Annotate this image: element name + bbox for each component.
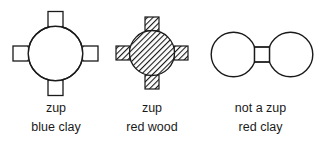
shape-not-a-zup-red-clay — [211, 32, 313, 77]
caption-verdict: zup — [11, 99, 101, 118]
square-north-hatched — [145, 17, 159, 31]
caption-verdict: not a zup — [208, 99, 313, 118]
caption-material: red clay — [208, 118, 313, 137]
caption-verdict: zup — [107, 99, 197, 118]
circle-left-outline — [211, 32, 256, 77]
shape-zup-red-wood — [116, 17, 188, 89]
caption-not-a-zup-red-clay: not a zup red clay — [208, 99, 313, 137]
caption-zup-blue-clay: zup blue clay — [11, 99, 101, 137]
shape-zup-blue-clay — [13, 12, 98, 96]
caption-material: blue clay — [11, 118, 101, 137]
square-south-hatched — [145, 75, 159, 89]
caption-material: red wood — [107, 118, 197, 137]
circle-hatched — [130, 31, 175, 76]
circle-right-outline — [268, 32, 313, 77]
zup-figure-panel: zup blue clay zup red wood not a zup red… — [0, 0, 320, 147]
square-east-hatched — [174, 46, 188, 60]
square-west-hatched — [116, 46, 130, 60]
caption-zup-red-wood: zup red wood — [107, 99, 197, 137]
